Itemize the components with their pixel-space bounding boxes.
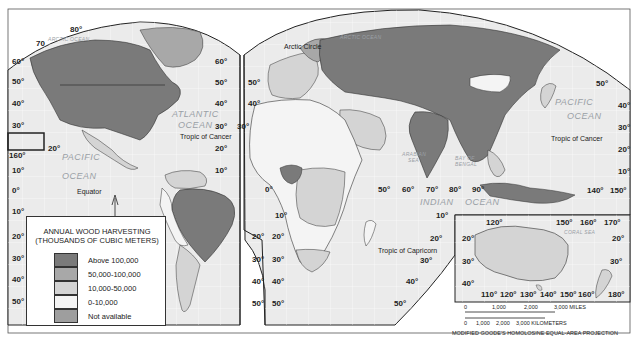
scale-miles-tick: 0 bbox=[464, 305, 467, 311]
lat-label: 20° bbox=[252, 233, 264, 241]
projection-label: MODIFIED GOODE'S HOMOLOSINE EQUAL-AREA P… bbox=[452, 331, 618, 337]
lat-label: 60° bbox=[215, 58, 227, 66]
legend-label-not-available: Not available bbox=[88, 313, 131, 321]
lon-label: 70° bbox=[426, 186, 438, 194]
pacific-ocean-east-label-2: OCEAN bbox=[567, 111, 602, 121]
lat-label: 30° bbox=[420, 257, 432, 265]
indian-ocean-label-1: INDIAN bbox=[420, 197, 454, 207]
lat-label: 40° bbox=[618, 102, 630, 110]
inset-lat-label: 40° bbox=[462, 280, 474, 288]
inset-lon-label: 160° bbox=[580, 219, 597, 227]
lat-label: 30° bbox=[12, 255, 24, 263]
lat-label: 50° bbox=[12, 298, 24, 306]
inset-lon-label: 120° bbox=[500, 291, 517, 299]
legend-swatch-not-available bbox=[54, 309, 78, 323]
legend-label-0-10000: 0-10,000 bbox=[88, 299, 118, 307]
legend-swatch-above-100000 bbox=[54, 253, 78, 267]
lat-label: 20° bbox=[12, 233, 24, 241]
lat-label: 20° bbox=[618, 146, 630, 154]
inset-lon-label: 170° bbox=[604, 219, 621, 227]
lat-label: 40° bbox=[248, 100, 260, 108]
lon-label: 60° bbox=[402, 186, 414, 194]
inset-lon-label: 150° bbox=[560, 291, 577, 299]
lat-label: 50° bbox=[252, 300, 264, 308]
legend-label-50000-100000: 50,000-100,000 bbox=[88, 271, 141, 279]
arctic-circle-label: Arctic Circle bbox=[284, 43, 321, 50]
lat-label: 10° bbox=[436, 212, 448, 220]
equator-lat-label: 0° bbox=[265, 186, 273, 194]
inset-lon-label: 130° bbox=[520, 291, 537, 299]
lon-label: 80° bbox=[449, 186, 461, 194]
lat-label: 40° bbox=[252, 278, 264, 286]
inset-lon-label: 110° bbox=[481, 291, 497, 299]
lat-label: 30° bbox=[237, 123, 249, 131]
lon-label: 90° bbox=[472, 186, 484, 194]
lat-label: 0° bbox=[12, 187, 20, 195]
inset-lat-label: 30° bbox=[462, 258, 474, 266]
pacific-ocean-west-label-1: PACIFIC bbox=[62, 152, 100, 162]
legend-title-line-2: (THOUSANDS OF CUBIC METERS) bbox=[27, 236, 167, 245]
scale-miles-tick: 2,000 bbox=[524, 305, 538, 311]
lat-label: 20° bbox=[430, 235, 442, 243]
lat-label: 50° bbox=[248, 79, 260, 87]
map-legend: ANNUAL WOOD HARVESTING (THOUSANDS OF CUB… bbox=[26, 216, 166, 326]
lat-label: 50° bbox=[272, 300, 284, 308]
arctic-ocean-label-east: ARCTIC OCEAN bbox=[340, 35, 381, 41]
equator-label: Equator bbox=[77, 188, 102, 195]
lat-label: 30° bbox=[215, 123, 227, 131]
inset-lat-label: 20° bbox=[462, 235, 474, 243]
lat-label: 40° bbox=[215, 100, 227, 108]
inset-lon-label: 120° bbox=[486, 219, 503, 227]
legend-title-line-1: ANNUAL WOOD HARVESTING bbox=[27, 227, 167, 236]
lat-label: 40° bbox=[406, 278, 418, 286]
lon-label: 80° bbox=[70, 26, 82, 34]
scale-km-tick: 2,000 bbox=[496, 321, 510, 327]
lon-label: 150° bbox=[610, 187, 627, 195]
lat-label: 30° bbox=[12, 122, 24, 130]
atlantic-ocean-label-1: ATLANTIC bbox=[172, 109, 219, 119]
indian-ocean-label-2: OCEAN bbox=[465, 197, 500, 207]
bay-of-bengal-label-2: BENGAL bbox=[455, 162, 477, 168]
lon-label: 70 bbox=[36, 40, 45, 48]
lat-label: 10° bbox=[618, 168, 630, 176]
arctic-ocean-label-west: ARCTIC OCEAN bbox=[48, 37, 89, 43]
pacific-ocean-west-label-2: OCEAN bbox=[62, 171, 97, 181]
inset-lat-label: 30° bbox=[610, 258, 622, 266]
inset-lon-label: 140° bbox=[540, 291, 557, 299]
lat-label: 50° bbox=[215, 79, 227, 87]
lat-label: 40° bbox=[272, 278, 284, 286]
tropic-of-cancer-west-label: Tropic of Cancer bbox=[180, 133, 231, 140]
scale-miles-tick: 1,000 bbox=[492, 305, 506, 311]
coral-sea-label: CORAL SEA bbox=[564, 230, 595, 236]
hawaii-lon-label: 160° bbox=[9, 152, 26, 160]
lat-label: 30° bbox=[272, 256, 284, 264]
lat-label: 40° bbox=[12, 276, 24, 284]
legend-swatch-10000-50000 bbox=[54, 281, 78, 295]
lon-label: 50° bbox=[378, 186, 390, 194]
legend-swatch-50000-100000 bbox=[54, 267, 78, 281]
lat-label: 20° bbox=[215, 145, 227, 153]
lat-label: 50° bbox=[394, 300, 406, 308]
scale-miles-tick: 3,000 MILES bbox=[554, 305, 586, 311]
lat-label: 50° bbox=[596, 80, 608, 88]
lat-label: 10° bbox=[12, 208, 24, 216]
legend-title: ANNUAL WOOD HARVESTING (THOUSANDS OF CUB… bbox=[27, 227, 167, 246]
lat-label: 10° bbox=[215, 167, 227, 175]
lat-label: 30° bbox=[618, 124, 630, 132]
lat-label: 40° bbox=[12, 100, 24, 108]
tropic-of-cancer-east-label: Tropic of Cancer bbox=[551, 135, 602, 142]
scale-km-tick: 1,000 bbox=[476, 321, 490, 327]
lat-label: 10° bbox=[275, 212, 287, 220]
scale-km-tick: 3,000 KILOMETERS bbox=[516, 321, 567, 327]
scale-bar: 0 1,000 2,000 3,000 MILES 0 1,000 2,000 … bbox=[452, 303, 637, 341]
atlantic-ocean-label-2: OCEAN bbox=[178, 120, 213, 130]
lat-label: 60° bbox=[12, 58, 24, 66]
legend-label-10000-50000: 10,000-50,000 bbox=[88, 285, 136, 293]
inset-lon-label: 160° bbox=[578, 291, 595, 299]
lon-label: 140° bbox=[587, 187, 604, 195]
lat-label: 20° bbox=[272, 233, 284, 241]
arabian-sea-label-2: SEA bbox=[408, 158, 419, 164]
legend-swatch-0-10000 bbox=[54, 295, 78, 309]
inset-lon-label: 150° bbox=[556, 219, 573, 227]
tropic-of-capricorn-label: Tropic of Capricorn bbox=[378, 247, 437, 254]
